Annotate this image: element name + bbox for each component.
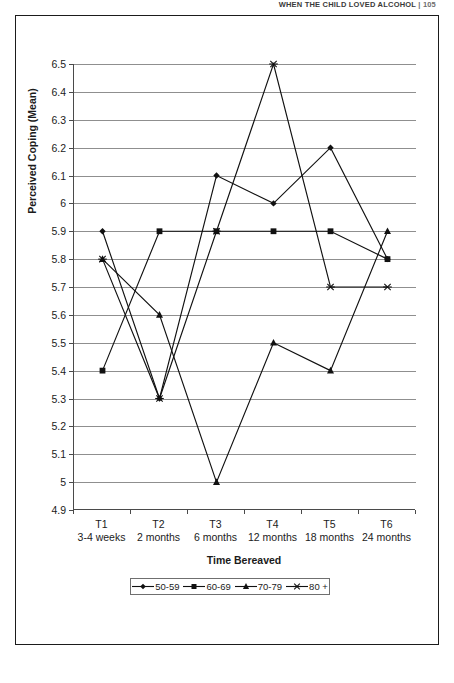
plot-area [73, 64, 415, 510]
x-axis-tick-label: T624 months [358, 518, 415, 544]
x-axis-tick-label: T22 months [130, 518, 187, 544]
x-axis-tick-label: T36 months [187, 518, 244, 544]
x-axis-tick-label-secondary: 3-4 weeks [73, 531, 130, 544]
y-axis-tickmark [69, 399, 73, 400]
y-axis-tick-label: 5.4 [26, 366, 66, 376]
legend-item-70-79[interactable]: 70-79 [233, 581, 284, 592]
y-axis-tick-label: 6.1 [26, 171, 66, 181]
y-axis-tick-label: 5.8 [26, 254, 66, 264]
y-axis-tick-label: 6 [26, 198, 66, 208]
y-axis-tickmark [69, 120, 73, 121]
legend-item-label: 50-59 [155, 581, 179, 592]
y-axis-tickmark [69, 287, 73, 288]
x-axis-tickmark [358, 510, 359, 514]
page-running-header: WHEN THE CHILD LOVED ALCOHOL | 105 [0, 0, 454, 14]
page-number: 105 [423, 0, 436, 9]
y-axis-tickmark [69, 176, 73, 177]
x-axis-tickmark [301, 510, 302, 514]
y-axis-tickmark [69, 92, 73, 93]
x-axis-tick-label: T412 months [244, 518, 301, 544]
y-axis-tickmark [69, 259, 73, 260]
y-axis-tick-label: 6.2 [26, 143, 66, 153]
legend-item-80[interactable]: 80 + [284, 581, 330, 592]
running-title: WHEN THE CHILD LOVED ALCOHOL [279, 0, 416, 9]
x-axis-tick-label-secondary: 6 months [187, 531, 244, 544]
y-axis-tick-label: 5.9 [26, 226, 66, 236]
y-axis-tickmark [69, 203, 73, 204]
x-axis-tickmark [415, 510, 416, 514]
y-axis-tickmark [69, 482, 73, 483]
y-axis-tickmark [69, 315, 73, 316]
y-axis-tickmark [69, 64, 73, 65]
x-axis-tick-label-secondary: 18 months [301, 531, 358, 544]
y-axis-tick-label: 4.9 [26, 505, 66, 515]
x-axis-tick-label-primary: T2 [130, 518, 187, 531]
y-axis-tick-label: 5.5 [26, 338, 66, 348]
legend-item-label: 80 + [309, 581, 328, 592]
y-axis-tickmark [69, 426, 73, 427]
x-axis-tick-label-primary: T1 [73, 518, 130, 531]
y-axis-tick-label: 6.4 [26, 87, 66, 97]
y-axis-tick-label: 5.3 [26, 394, 66, 404]
x-axis-tick-label-primary: T3 [187, 518, 244, 531]
legend-item-60-69[interactable]: 60-69 [181, 581, 232, 592]
line-chart: Perceived Coping (Mean) 6.56.46.36.26.16… [16, 16, 440, 646]
x-axis-tick-label-primary: T6 [358, 518, 415, 531]
x-axis-tickmark [130, 510, 131, 514]
y-axis-tick-label: 6.3 [26, 115, 66, 125]
chart-legend: 50-5960-6970-7980 + [130, 578, 330, 595]
star-marker-icon [286, 582, 308, 591]
y-axis-tickmark [69, 231, 73, 232]
triangle-marker-icon [235, 582, 257, 591]
y-axis-tick-label: 5.6 [26, 310, 66, 320]
legend-item-label: 70-79 [258, 581, 282, 592]
y-axis-tick-label: 5 [26, 477, 66, 487]
x-axis-tick-label-primary: T4 [244, 518, 301, 531]
header-separator: | [418, 0, 420, 9]
x-axis-title: Time Bereaved [73, 554, 415, 566]
y-axis-tick-label: 5.7 [26, 282, 66, 292]
legend-item-50-59[interactable]: 50-59 [130, 581, 181, 592]
square-marker-icon [183, 582, 205, 591]
diamond-marker-icon [132, 582, 154, 591]
series-lines [74, 64, 416, 510]
x-axis-tick-label-secondary: 2 months [130, 531, 187, 544]
x-axis-tickmark [73, 510, 74, 514]
figure-frame: Perceived Coping (Mean) 6.56.46.36.26.16… [15, 15, 439, 645]
x-axis-tick-label-primary: T5 [301, 518, 358, 531]
x-axis-tick-label-secondary: 12 months [244, 531, 301, 544]
legend-item-label: 60-69 [206, 581, 230, 592]
y-axis-tickmark [69, 454, 73, 455]
y-axis-tick-label: 5.1 [26, 449, 66, 459]
y-axis-tickmark [69, 343, 73, 344]
x-axis-tickmark [244, 510, 245, 514]
x-axis-tick-label: T518 months [301, 518, 358, 544]
y-axis-tick-label: 6.5 [26, 59, 66, 69]
y-axis-tickmark [69, 371, 73, 372]
x-axis-tick-label-secondary: 24 months [358, 531, 415, 544]
y-axis-tick-label: 5.2 [26, 421, 66, 431]
x-axis-tick-label: T13-4 weeks [73, 518, 130, 544]
x-axis-tickmark [187, 510, 188, 514]
y-axis-tickmark [69, 148, 73, 149]
